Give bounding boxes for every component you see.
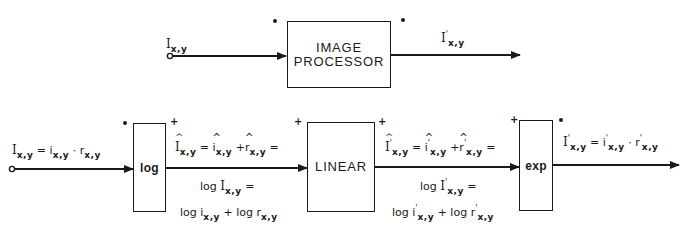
image-processor-box: IMAGE PROCESSOR [287,21,391,88]
image-processor-label: IMAGE PROCESSOR [294,41,384,69]
input-equation: Ix,y = ix,y · rx,y [12,144,101,156]
additive-marker-plus: + [170,117,178,127]
output-equation: I'x,y = i'x,y · r'x,y [563,136,658,148]
exp-box: exp [519,120,553,211]
top-output-label: I'x,y [441,32,465,44]
processed-log-sum-equation: log i'x,y + log r'x,y [392,207,494,218]
log-sum-equation: log ix,y + log rx,y [180,207,278,218]
additive-marker-plus: + [378,117,386,127]
bottom-input-terminal [9,166,14,171]
homomorphic-filter-diagram: Ix,y IMAGE PROCESSOR I'x,y Ix,y = ix,y ·… [0,0,690,243]
multiplicative-marker-dot [401,18,405,22]
linear-label: LINEAR [315,160,367,174]
multiplicative-marker-dot [273,19,277,23]
log-box: log [133,123,166,212]
log-of-input-equation: log Ix,y = [200,180,254,192]
exp-label: exp [525,159,547,173]
linear-output-equation: I'x,y = i'x,y +r'x,y = [385,141,495,153]
multiplicative-marker-dot [123,121,127,125]
linear-box: LINEAR [307,122,375,212]
additive-marker-plus: + [294,117,302,127]
log-of-processed-equation: log I'x,y = [420,180,477,192]
multiplicative-marker-dot [559,118,563,122]
log-label: log [140,161,159,175]
additive-marker-plus: + [510,115,518,125]
top-input-label: Ix,y [166,38,187,50]
log-output-equation: Ix,y = ix,y +rx,y = [175,141,279,153]
top-input-terminal [167,53,172,58]
